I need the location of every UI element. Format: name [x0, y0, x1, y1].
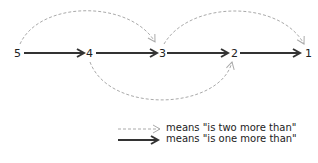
dashed-arrow-3-to-1 — [164, 11, 304, 44]
node-2: 2 — [231, 47, 238, 60]
dashed-arrow-5-to-3 — [20, 11, 155, 44]
node-1: 1 — [305, 47, 312, 60]
node-5: 5 — [14, 47, 21, 60]
node-3: 3 — [159, 47, 166, 60]
legend-two-more-text: means "is two more than" — [166, 122, 296, 133]
dashed-arrow-4-to-2 — [90, 62, 232, 100]
node-4: 4 — [86, 47, 93, 60]
legend-one-more-text: means "is one more than" — [166, 133, 297, 144]
